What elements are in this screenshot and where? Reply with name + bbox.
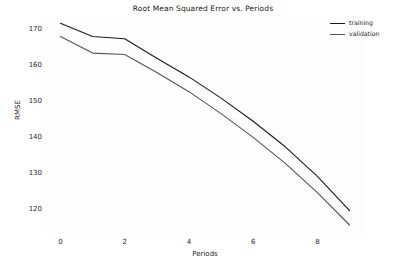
x-axis-label: Periods xyxy=(46,250,364,258)
chart-figure: Root Mean Squared Error vs. Periods 1201… xyxy=(0,0,406,270)
chart-title: Root Mean Squared Error vs. Periods xyxy=(0,4,406,13)
legend-item-training[interactable]: training xyxy=(330,19,379,27)
y-tick-label: 170 xyxy=(2,25,42,33)
legend-swatch-validation xyxy=(330,34,345,35)
legend-label-validation: validation xyxy=(349,30,379,38)
x-tick-label: 8 xyxy=(302,238,332,246)
y-tick-label: 160 xyxy=(2,61,42,69)
x-tick-label: 2 xyxy=(110,238,140,246)
series-lines xyxy=(60,23,349,225)
x-tick-label: 0 xyxy=(45,238,75,246)
legend-label-training: training xyxy=(349,19,373,27)
x-tick-label: 4 xyxy=(174,238,204,246)
y-tick-label: 120 xyxy=(2,205,42,213)
y-axis-label: RMSE xyxy=(14,80,22,140)
chart-legend: trainingvalidation xyxy=(330,19,379,38)
x-tick-label: 6 xyxy=(238,238,268,246)
y-tick-label: 130 xyxy=(2,169,42,177)
plot-area xyxy=(46,16,364,234)
plot-svg xyxy=(46,16,364,234)
y-tick-label: 140 xyxy=(2,133,42,141)
y-tick-label: 150 xyxy=(2,97,42,105)
series-line-validation xyxy=(60,37,349,225)
legend-swatch-training xyxy=(330,23,345,24)
legend-item-validation[interactable]: validation xyxy=(330,30,379,38)
